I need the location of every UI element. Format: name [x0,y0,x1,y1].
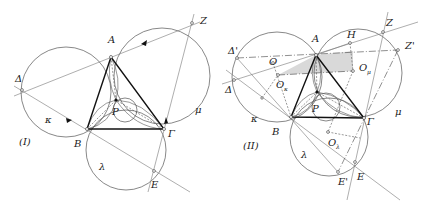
point-z-prime [397,49,400,52]
label-p: P [311,103,319,114]
caption-i: (I) [19,136,31,147]
point-o-kappa [277,74,280,77]
label-o-mu-sub: μ [367,68,371,76]
line-delta-e [226,70,400,200]
label-gamma: Γ [167,128,176,139]
label-b: B [73,138,81,149]
point-delta [233,79,236,82]
caption-ii: (II) [243,140,259,151]
label-e-prime: E' [337,176,348,187]
label-z: Z [385,17,394,28]
point-gamma [363,117,366,120]
label-lambda: λ [300,149,307,160]
label-kappa: κ [44,114,52,125]
label-b: B [271,126,279,137]
point-o-lambda [327,131,330,134]
label-o-kappa: O [276,79,284,90]
point-o-mu [352,70,355,73]
arrow-icon [66,118,72,123]
label-mu: μ [195,104,202,115]
label-lambda: λ [98,161,105,172]
point-e [354,161,357,164]
label-o-kappa-sub: κ [283,85,288,92]
point-b [290,116,293,119]
label-mu: μ [395,106,402,117]
label-o-lambda-sub: λ [335,143,340,150]
line-delta-e [14,86,190,192]
point-p [315,90,318,93]
triangle-abg [87,57,164,129]
circle-kappa [21,47,111,137]
figure-i: A B Γ P Δ Z E κ μ λ (I) [14,14,210,192]
point-b [86,128,89,131]
point-e-prime [337,171,340,174]
label-o-mu: O [359,62,367,73]
line-z-e [148,14,194,192]
point-gamma [163,128,166,131]
label-a: A [311,33,319,44]
label-delta: Δ [224,84,232,95]
point-e [153,170,156,173]
dash-gp [317,92,364,118]
dash-omu-olambda [328,71,353,132]
point-delta-prime [236,57,239,60]
label-o-lambda: O [328,137,336,148]
point-a [315,54,318,57]
diagram-svg: A B Γ P Δ Z E κ μ λ (I) [0,0,421,203]
label-delta: Δ [14,73,22,84]
circle-kappa [232,32,322,122]
label-kappa: κ [250,113,258,124]
figure-ii: A B Γ P Δ Δ' Z Z' E E' H O O κ O μ O λ κ… [222,12,418,200]
point-z [191,22,194,25]
geometry-figure: A B Γ P Δ Z E κ μ λ (I) [0,0,421,203]
point-a [110,56,113,59]
point-aux [261,97,263,99]
line-delta-z [14,22,200,96]
label-p: P [111,106,119,117]
label-a: A [107,34,115,45]
point-h [349,42,352,45]
label-e: E [150,179,159,190]
label-z: Z [199,15,208,26]
point-p [114,98,117,101]
label-z-prime: Z' [404,40,415,51]
label-delta-prime: Δ' [227,45,238,56]
label-o: O [269,56,277,67]
label-gamma: Γ [366,116,375,127]
circle-mu [314,29,402,117]
point-delta [21,89,24,92]
label-h: H [346,29,356,40]
label-e: E [356,171,365,182]
point-z [382,31,385,34]
